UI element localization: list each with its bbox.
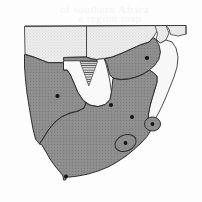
southern-africa-map-figure: of southern Africa a region map (0, 0, 202, 202)
city-marker-pretoria (130, 115, 134, 119)
map-top-frame-line (25, 26, 187, 27)
city-marker-mbabane (151, 122, 155, 126)
city-marker-cape-town (64, 175, 68, 179)
city-marker-maseru (124, 141, 128, 145)
city-marker-gaborone (109, 103, 113, 107)
city-marker-harare (145, 56, 149, 60)
city-marker-windhoek (55, 94, 59, 98)
map-canvas (0, 0, 202, 202)
